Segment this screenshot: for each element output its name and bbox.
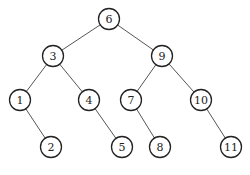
tree-node-8: 8 <box>150 137 171 158</box>
node-label: 2 <box>48 141 55 154</box>
tree-node-5: 5 <box>112 137 133 158</box>
tree-node-1: 1 <box>10 90 31 111</box>
node-label: 4 <box>86 94 93 107</box>
node-label: 9 <box>159 50 166 63</box>
node-label: 1 <box>17 94 24 107</box>
tree-svg: 6391471025811 <box>0 0 250 175</box>
node-label: 10 <box>194 94 208 107</box>
node-label: 11 <box>224 141 238 154</box>
tree-node-10: 10 <box>191 90 212 111</box>
node-label: 8 <box>157 141 164 154</box>
edges <box>20 19 231 147</box>
tree-node-11: 11 <box>221 137 242 158</box>
tree-node-2: 2 <box>41 137 62 158</box>
tree-node-3: 3 <box>43 46 64 67</box>
node-label: 7 <box>128 94 135 107</box>
tree-diagram: 6391471025811 <box>0 0 250 175</box>
tree-node-7: 7 <box>121 90 142 111</box>
node-label: 6 <box>106 13 113 26</box>
tree-node-6: 6 <box>99 9 120 30</box>
node-label: 5 <box>119 141 126 154</box>
tree-node-4: 4 <box>79 90 100 111</box>
tree-node-9: 9 <box>152 46 173 67</box>
node-label: 3 <box>50 50 57 63</box>
